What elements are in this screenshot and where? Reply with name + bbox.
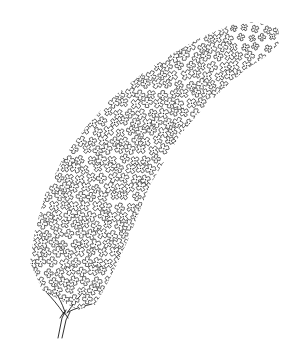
floret-center: [64, 167, 65, 168]
floret-center: [73, 187, 74, 188]
floret-center: [90, 216, 91, 217]
floret-center: [70, 270, 71, 271]
floret-center: [59, 195, 60, 196]
floret-center: [85, 186, 86, 187]
floret: [37, 201, 46, 210]
floret: [251, 62, 261, 72]
floret-center: [31, 244, 32, 245]
floret-center: [113, 177, 114, 178]
floret-center: [73, 299, 74, 300]
floret-center: [113, 102, 114, 103]
floret-center: [130, 92, 131, 93]
floret-center: [216, 38, 217, 39]
floret-center: [59, 177, 60, 178]
floret-center: [97, 262, 98, 263]
floret-center: [136, 196, 137, 197]
floret-center: [58, 251, 59, 252]
floret-center: [40, 281, 41, 282]
floret-center: [101, 159, 102, 160]
floret: [274, 42, 282, 50]
floret-center: [68, 178, 69, 179]
floret-center: [84, 280, 85, 281]
floret-center: [37, 214, 38, 215]
floret-center: [229, 74, 230, 75]
floret-center: [102, 233, 103, 234]
floret-center: [102, 270, 103, 271]
floret-center: [58, 233, 59, 234]
floret-center: [73, 280, 74, 281]
floret-center: [191, 65, 192, 66]
floret: [33, 210, 42, 219]
floret-center: [119, 94, 120, 95]
floret-center: [139, 206, 140, 207]
floret-center: [86, 148, 87, 149]
floret-center: [261, 57, 262, 58]
floret-center: [150, 186, 151, 187]
floret-center: [130, 168, 131, 169]
floret-center: [183, 130, 184, 131]
floret-center: [109, 187, 110, 188]
floret-center: [178, 84, 179, 85]
floret-center: [69, 215, 70, 216]
floret: [94, 297, 103, 306]
floret-center: [156, 122, 157, 123]
floret-center: [191, 86, 192, 87]
floret-center: [108, 263, 109, 264]
floret-center: [178, 104, 179, 105]
floret-center: [101, 178, 102, 179]
floret-center: [145, 141, 146, 142]
floret-center: [90, 251, 91, 252]
floret-center: [195, 113, 196, 114]
floret-center: [169, 140, 170, 141]
floret-center: [189, 46, 190, 47]
floret-center: [46, 252, 47, 253]
floret-center: [87, 261, 88, 262]
floret-center: [219, 76, 220, 77]
floret-center: [156, 178, 157, 179]
floret-center: [98, 301, 99, 302]
floret-center: [62, 244, 63, 245]
floret-center: [47, 216, 48, 217]
floret-center: [75, 262, 76, 263]
floret-center: [245, 47, 246, 48]
floret-center: [169, 102, 170, 103]
floret-center: [119, 225, 120, 226]
floret-center: [102, 196, 103, 197]
floret-center: [79, 251, 80, 252]
floret-center: [272, 36, 273, 37]
floret-center: [123, 233, 124, 234]
floret-center: [111, 160, 112, 161]
floret: [54, 154, 65, 165]
floret-center: [80, 196, 81, 197]
floret-center: [140, 168, 141, 169]
floret-center: [147, 123, 148, 124]
floret-center: [278, 46, 279, 47]
floret-center: [75, 224, 76, 225]
floret-center: [222, 29, 223, 30]
flower-panicle-drawing: [0, 0, 293, 363]
floret-center: [81, 291, 82, 292]
floret-center: [162, 95, 163, 96]
floret-center: [239, 74, 240, 75]
floret-center: [277, 29, 278, 30]
floret-center: [37, 234, 38, 235]
floret-center: [196, 73, 197, 74]
floret-center: [37, 251, 38, 252]
floret-center: [102, 121, 103, 122]
floret-center: [244, 27, 245, 28]
floret-center: [97, 205, 98, 206]
floret-center: [173, 57, 174, 58]
floret-center: [254, 28, 255, 29]
floret: [147, 182, 156, 191]
floret-center: [205, 56, 206, 57]
floret: [258, 16, 266, 24]
floret-center: [252, 38, 253, 39]
floret-center: [150, 94, 151, 95]
floret-center: [42, 223, 43, 224]
floret-center: [108, 130, 109, 131]
floret: [92, 108, 100, 116]
floret-center: [163, 132, 164, 133]
floret: [105, 276, 113, 284]
floret: [207, 25, 216, 34]
floret-center: [102, 215, 103, 216]
